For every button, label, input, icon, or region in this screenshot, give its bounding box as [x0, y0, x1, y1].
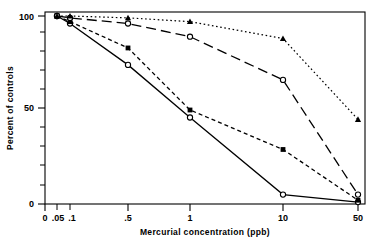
x-axis: 0 .05 .1 .5 1 10 50 Mercurial concentrat… — [42, 204, 363, 237]
plot-area-border — [45, 12, 365, 204]
data-point-filled-square-short-dash-1 — [188, 108, 193, 113]
data-point-open-circle-long-dash-10 — [280, 77, 285, 82]
data-point-filled-square-short-dash-10 — [281, 147, 286, 152]
data-point-open-circle-solid-10 — [280, 192, 285, 197]
x-tick-label-0: 0 — [42, 213, 47, 223]
x-tick-label-10: 10 — [278, 213, 288, 223]
y-tick-label-100: 100 — [19, 12, 34, 22]
data-point-open-circle-solid-0.5 — [125, 62, 130, 67]
y-tick-label-0: 0 — [29, 199, 34, 209]
x-tick-label-0.5: .5 — [124, 213, 132, 223]
data-point-filled-square-short-dash-50 — [356, 198, 361, 203]
chart-figure: 0 50 100 Percent of controls 0 .05 .1 .5… — [0, 0, 380, 242]
data-point-open-circle-long-dash-50 — [355, 192, 360, 197]
data-point-open-circle-long-dash-1 — [187, 34, 192, 39]
y-axis: 0 50 100 Percent of controls — [5, 12, 45, 209]
x-tick-label-50: 50 — [353, 213, 363, 223]
y-axis-title: Percent of controls — [5, 66, 15, 150]
plot-frame — [45, 12, 365, 204]
data-point-open-circle-long-dash-0.5 — [125, 21, 130, 26]
x-tick-label-0.05: .05 — [52, 213, 65, 223]
x-tick-label-1: 1 — [187, 213, 192, 223]
x-axis-title: Mercurial concentration (ppb) — [140, 227, 270, 237]
x-tick-label-0.1: .1 — [68, 213, 76, 223]
data-point-open-circle-solid-1 — [187, 115, 192, 120]
y-tick-label-50: 50 — [24, 103, 34, 113]
data-point-filled-square-short-dash-0.5 — [126, 46, 131, 51]
